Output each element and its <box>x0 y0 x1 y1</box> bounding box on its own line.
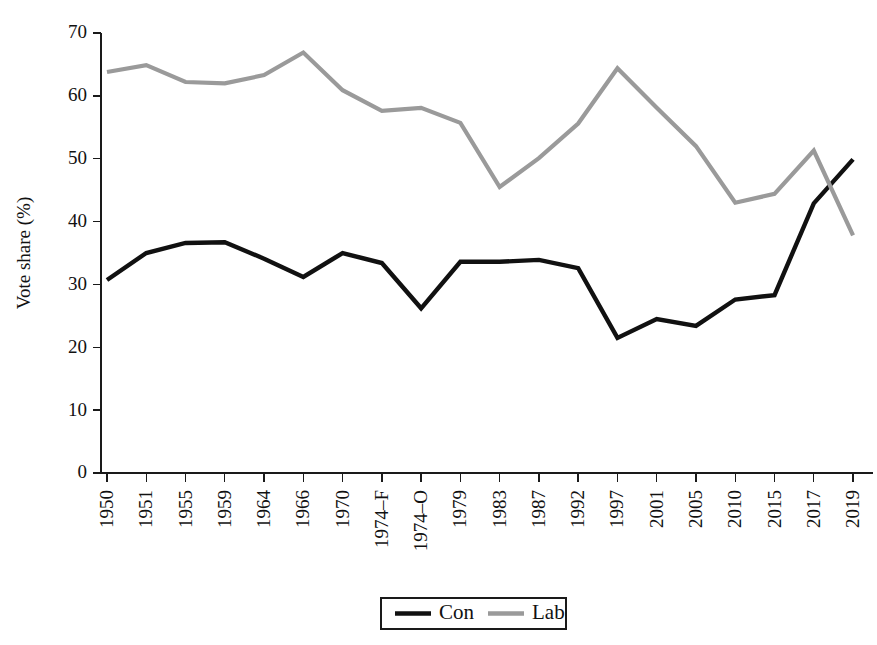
x-tick-label: 1966 <box>292 490 313 528</box>
x-tick-label: 1970 <box>332 490 353 528</box>
x-tick-label: 1974–O <box>410 490 431 551</box>
series-line-lab <box>107 52 853 235</box>
y-tick-label: 10 <box>68 399 87 420</box>
x-tick-label: 2015 <box>764 490 785 528</box>
y-axis-title: Vote share (%) <box>13 197 35 310</box>
x-tick-label: 1950 <box>96 490 117 528</box>
x-tick-label: 1992 <box>567 490 588 528</box>
x-tick-label: 2001 <box>646 490 667 528</box>
chart-figure: 010203040506070Vote share (%)19501951195… <box>0 0 877 645</box>
x-tick-label: 1983 <box>489 490 510 528</box>
y-tick-label: 0 <box>78 461 88 482</box>
x-tick-label: 1987 <box>528 490 549 528</box>
y-tick-label: 50 <box>68 147 87 168</box>
x-tick-label: 1964 <box>253 490 274 529</box>
x-tick-label: 1955 <box>175 490 196 528</box>
y-tick-label: 60 <box>68 84 87 105</box>
legend-label-lab: Lab <box>532 600 565 624</box>
x-tick-label: 1951 <box>135 490 156 528</box>
legend-label-con: Con <box>439 600 475 624</box>
y-tick-label: 70 <box>68 21 87 42</box>
x-tick-label: 1974–F <box>371 490 392 548</box>
x-tick-label: 1959 <box>214 490 235 528</box>
vote-share-line-chart: 010203040506070Vote share (%)19501951195… <box>0 0 877 645</box>
y-tick-label: 20 <box>68 336 87 357</box>
x-tick-label: 2017 <box>803 490 824 528</box>
x-tick-label: 2010 <box>724 490 745 528</box>
y-tick-label: 40 <box>68 210 87 231</box>
x-tick-label: 2019 <box>842 490 863 528</box>
series-line-con <box>107 159 853 338</box>
x-tick-label: 2005 <box>685 490 706 528</box>
x-tick-label: 1997 <box>606 490 627 528</box>
y-tick-label: 30 <box>68 273 87 294</box>
x-tick-label: 1979 <box>449 490 470 528</box>
